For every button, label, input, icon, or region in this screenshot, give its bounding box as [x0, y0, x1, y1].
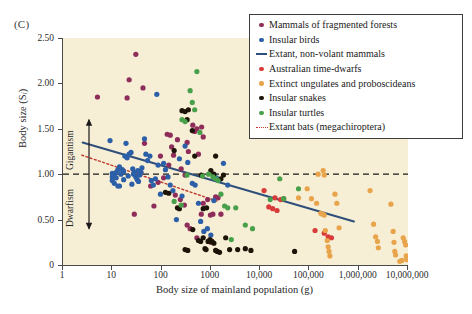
data-point — [185, 160, 190, 165]
data-point — [397, 259, 402, 264]
legend-key-dotted — [254, 120, 269, 134]
x-tick-label: 1,000,000 — [339, 270, 377, 280]
legend-dot-icon — [259, 67, 263, 71]
legend-item-5[interactable]: Insular snakes — [254, 91, 457, 106]
data-point — [250, 226, 255, 231]
data-point — [326, 244, 331, 249]
data-point — [151, 203, 156, 208]
data-point — [166, 191, 171, 196]
data-point — [168, 133, 173, 138]
data-point — [196, 201, 201, 206]
data-point — [188, 88, 193, 93]
annotation-arrow-head-down — [86, 223, 92, 230]
data-point — [140, 85, 145, 90]
data-point — [142, 141, 147, 146]
y-tick-label: 2.50 — [37, 33, 54, 43]
data-point — [192, 107, 197, 112]
legend-label: Insular turtles — [269, 108, 324, 118]
data-point — [221, 173, 226, 178]
series-3 — [296, 168, 408, 264]
y-axis-title-tail: ) — [17, 89, 28, 93]
legend-label: Extinct ungulates and proboscideans — [269, 79, 415, 89]
data-point — [151, 183, 156, 188]
gigantism-label: Gigantism — [65, 131, 75, 171]
x-axis-ticks: 110100100010,000100,0001,000,00010,000,0… — [62, 266, 407, 284]
data-point — [203, 247, 208, 252]
x-tick-label: 1000 — [200, 270, 219, 280]
legend-item-4[interactable]: Extinct ungulates and proboscideans — [254, 76, 457, 91]
legend-item-6[interactable]: Insular turtles — [254, 106, 457, 121]
panel-label: (C) — [14, 18, 29, 30]
data-point — [158, 192, 163, 197]
data-point — [272, 195, 277, 200]
data-point — [179, 202, 184, 207]
legend-item-1[interactable]: Insular birds — [254, 33, 457, 48]
data-point — [199, 124, 204, 129]
data-point — [114, 175, 119, 180]
data-point — [221, 161, 226, 166]
data-point — [323, 228, 328, 233]
data-point — [163, 167, 168, 172]
legend: Mammals of fragmented forestsInsular bir… — [249, 14, 463, 139]
data-point — [373, 234, 378, 239]
y-tick-label: 1.00 — [37, 169, 54, 179]
data-point — [210, 212, 215, 217]
y-axis-title: Body size (Si) — [17, 43, 30, 193]
x-tick-mark — [407, 266, 408, 270]
data-point — [281, 196, 286, 201]
data-point — [121, 169, 126, 174]
legend-item-2[interactable]: Extant, non-volant mammals — [254, 47, 457, 62]
data-point — [205, 197, 210, 202]
data-point — [312, 228, 317, 233]
data-point — [185, 248, 190, 253]
data-point — [309, 196, 314, 201]
data-point — [190, 123, 195, 128]
data-point — [135, 168, 140, 173]
data-point — [161, 175, 166, 180]
x-tick-label: 10,000,000 — [386, 270, 429, 280]
legend-dot-icon — [259, 23, 263, 27]
data-point — [225, 205, 230, 210]
legend-dot-icon — [259, 38, 263, 42]
x-tick-label: 100 — [153, 270, 167, 280]
legend-item-7[interactable]: Extant bats (megachiroptera) — [254, 120, 457, 135]
data-point — [172, 148, 177, 153]
data-point — [107, 138, 112, 143]
data-point — [217, 250, 222, 255]
data-point — [261, 188, 266, 193]
data-point — [95, 94, 100, 99]
legend-key-dot — [254, 77, 269, 91]
x-tick-label: 100,000 — [293, 270, 324, 280]
x-axis-title: Body size of mainland population (g) — [62, 284, 407, 295]
data-point — [296, 195, 301, 200]
data-point — [125, 95, 130, 100]
data-point — [182, 119, 187, 124]
data-point — [268, 197, 273, 202]
data-point — [199, 212, 204, 217]
data-point — [190, 128, 195, 133]
legend-label: Mammals of fragmented forests — [269, 20, 397, 30]
legend-key-dot — [254, 91, 269, 105]
data-point — [201, 134, 206, 139]
legend-line-icon — [256, 53, 267, 55]
data-point — [133, 52, 138, 57]
dwarfism-label: Dwarfism — [65, 189, 75, 227]
data-point — [121, 177, 126, 182]
figure-panel-c: (C) 00.501.001.502.002.50 Body size (Si)… — [0, 0, 472, 314]
legend-item-3[interactable]: Australian time-dwarfs — [254, 62, 457, 77]
data-point — [177, 156, 182, 161]
data-point — [334, 201, 339, 206]
data-point — [206, 172, 211, 177]
data-point — [131, 172, 136, 177]
data-point — [326, 249, 331, 254]
data-point — [166, 163, 171, 168]
data-point — [193, 183, 198, 188]
legend-item-0[interactable]: Mammals of fragmented forests — [254, 18, 457, 33]
data-point — [190, 100, 195, 105]
data-point — [227, 247, 232, 252]
data-point — [205, 226, 210, 231]
x-tick-label: 10,000 — [246, 270, 272, 280]
data-point — [367, 188, 372, 193]
data-point — [197, 130, 202, 135]
data-point — [128, 150, 133, 155]
